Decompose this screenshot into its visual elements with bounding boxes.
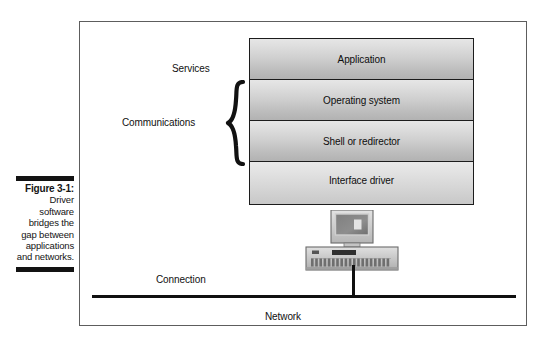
curly-brace-icon <box>225 80 247 166</box>
layer-box-operating-system: Operating system <box>249 79 474 121</box>
layer-label: Operating system <box>323 95 400 106</box>
label-communications: Communications <box>122 117 195 128</box>
layer-label: Shell or redirector <box>323 136 400 147</box>
figure-caption: Figure 3-1: Driver software bridges the … <box>14 176 74 272</box>
layer-box-shell-or-redirector: Shell or redirector <box>249 120 474 162</box>
layer-label: Interface driver <box>329 175 394 186</box>
layer-box-application: Application <box>249 38 474 80</box>
label-network: Network <box>265 311 301 322</box>
connection-drop-line <box>352 265 355 297</box>
network-bus-line <box>92 295 516 298</box>
layer-label: Application <box>338 54 386 65</box>
layer-box-interface-driver: Interface driver <box>249 161 474 205</box>
label-connection: Connection <box>156 274 206 285</box>
caption-text: Figure 3-1: Driver software bridges the … <box>14 181 74 264</box>
caption-figure-label: Figure 3-1: <box>14 183 74 194</box>
caption-body-text: Driver software bridges the gap between … <box>14 194 74 262</box>
caption-rule-bottom <box>16 267 74 272</box>
label-services: Services <box>172 63 210 74</box>
figure-frame: Services Communications Connection Netwo… <box>79 21 527 326</box>
protocol-layer-stack: Application Operating system Shell or re… <box>249 38 474 204</box>
